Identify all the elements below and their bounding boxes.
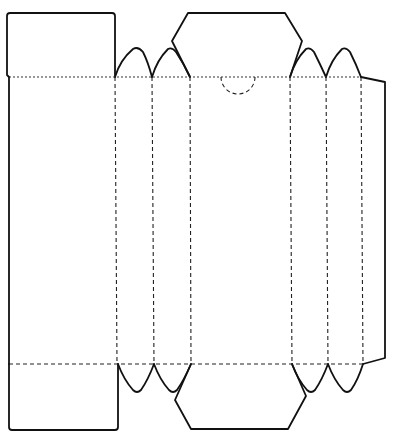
bottom-hexagon-lid <box>175 364 306 429</box>
top-hexagon-lid <box>172 13 302 77</box>
vertical-fold-line-4 <box>290 77 292 364</box>
box-net-diagram <box>0 0 396 435</box>
glue-tab <box>361 77 385 364</box>
bottom-left-flap <box>9 364 118 430</box>
bottom-arch-tab-1 <box>118 364 154 392</box>
top-arch-tab-3 <box>290 48 326 77</box>
top-arch-tab-2 <box>152 48 190 77</box>
bottom-arch-tab-4 <box>328 364 363 392</box>
vertical-fold-line-2 <box>152 77 154 364</box>
top-left-flap <box>7 13 115 77</box>
vertical-fold-line-5 <box>326 77 328 364</box>
top-arch-tab-1 <box>115 48 152 77</box>
vertical-fold-line-6 <box>361 77 363 364</box>
top-arch-tab-4 <box>326 48 361 77</box>
thumb-notch <box>221 77 255 94</box>
vertical-fold-line-1 <box>115 77 117 364</box>
vertical-fold-line-3 <box>190 77 191 364</box>
